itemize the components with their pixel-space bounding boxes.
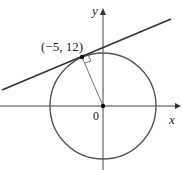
origin-point xyxy=(101,104,105,108)
y-axis-arrow-icon xyxy=(100,8,106,15)
diagram: (−5, 12) 0 x y xyxy=(0,0,182,170)
tangent-point xyxy=(80,55,84,59)
radius-line xyxy=(82,57,103,106)
x-axis-label: x xyxy=(169,112,175,128)
tangent-line xyxy=(2,19,171,90)
origin-label: 0 xyxy=(93,109,99,124)
point-label: (−5, 12) xyxy=(41,39,83,55)
y-axis-label: y xyxy=(92,3,98,19)
tangent-diagram xyxy=(0,0,182,170)
x-axis-arrow-icon xyxy=(175,103,181,109)
